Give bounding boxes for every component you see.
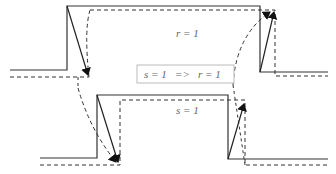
causal-curve-right xyxy=(233,12,270,85)
arrow-bottom-falling xyxy=(97,95,118,162)
label-r: r = 1 xyxy=(176,27,199,39)
arrow-top-rising xyxy=(260,12,274,72)
signal-s-dashed xyxy=(40,85,328,165)
label-s: s = 1 xyxy=(176,104,199,116)
implication-box: s = 1 => r = 1 xyxy=(137,65,234,83)
implication-label: s = 1 => r = 1 xyxy=(144,68,221,80)
arrow-bottom-rising xyxy=(228,104,244,159)
arrow-top-falling xyxy=(67,6,88,75)
timing-diagram: r = 1 s = 1 s = 1 => r = 1 xyxy=(0,0,336,174)
signal-r-solid xyxy=(10,6,328,72)
